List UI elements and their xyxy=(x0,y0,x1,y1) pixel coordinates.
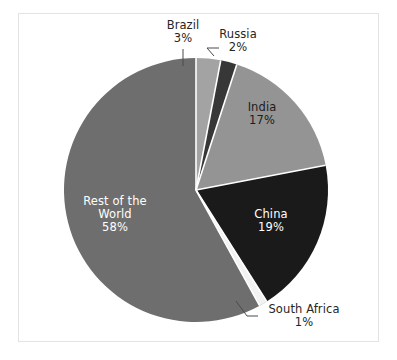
slice-label-russia: Russia 2% xyxy=(205,28,271,54)
slice-label-india: India 17% xyxy=(232,101,292,127)
slice-label-russia-name: Russia xyxy=(219,27,257,41)
slice-label-south-africa: South Africa 1% xyxy=(255,303,353,329)
slice-label-rest-of-the-world-percent: 58% xyxy=(66,221,164,234)
slice-label-india-percent: 17% xyxy=(232,114,292,127)
slice-label-china-name: China xyxy=(254,207,287,221)
slice-label-rest-of-the-world: Rest of the World 58% xyxy=(66,195,164,235)
slice-label-rest-of-the-world-line1: Rest of the xyxy=(83,194,146,208)
pie-chart-figure: Brazil 3% Russia 2% India 17% China 19% … xyxy=(0,0,397,360)
slice-label-south-africa-name: South Africa xyxy=(268,302,339,316)
slice-label-india-name: India xyxy=(248,100,277,114)
slice-label-south-africa-percent: 1% xyxy=(255,316,353,329)
slice-label-russia-percent: 2% xyxy=(205,41,271,54)
slice-label-china-percent: 19% xyxy=(240,221,302,234)
slice-label-china: China 19% xyxy=(240,208,302,234)
slice-label-brazil-name: Brazil xyxy=(167,18,200,32)
